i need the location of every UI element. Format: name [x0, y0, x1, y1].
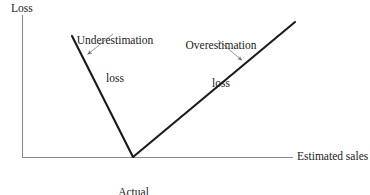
overestimation-annotation-line2: loss: [168, 77, 274, 90]
underestimation-annotation-line2: loss: [62, 72, 168, 85]
actual-sales-label-line1: Actual: [96, 186, 171, 195]
actual-sales-label: Actual sales: [96, 160, 171, 195]
overestimation-annotation: Overestimation loss: [168, 13, 274, 116]
underestimation-annotation-line1: Underestimation: [62, 34, 168, 47]
x-axis-label: Estimated sales: [297, 150, 368, 163]
underestimation-annotation: Underestimation loss: [62, 8, 168, 111]
y-axis-label: Loss: [11, 2, 33, 15]
overestimation-annotation-line1: Overestimation: [168, 39, 274, 52]
loss-function-figure: Loss Estimated sales Underestimation los…: [0, 0, 370, 195]
